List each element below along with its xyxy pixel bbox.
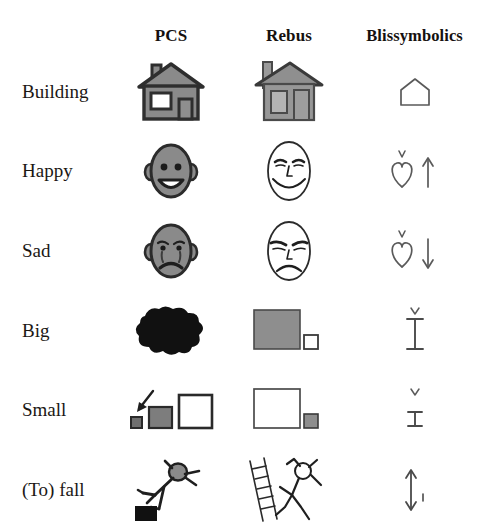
column-header-blissymbolics: Blissymbolics bbox=[348, 0, 481, 52]
cell-pcs-small bbox=[112, 371, 230, 451]
table-row: (To) fall bbox=[0, 450, 481, 530]
bliss-sad-icon bbox=[384, 227, 446, 275]
cell-rebus-fall bbox=[230, 450, 348, 530]
column-header-rebus: Rebus bbox=[230, 0, 348, 52]
cell-bliss-happy bbox=[348, 132, 481, 212]
cell-bliss-sad bbox=[348, 211, 481, 291]
bliss-small-icon bbox=[397, 383, 433, 437]
cell-bliss-fall bbox=[348, 450, 481, 530]
cell-pcs-happy bbox=[112, 132, 230, 212]
rebus-happy-face-icon bbox=[260, 138, 318, 204]
rebus-big-squares-icon bbox=[251, 304, 327, 358]
pcs-big-blob-icon bbox=[131, 302, 211, 360]
column-header-pcs: PCS bbox=[112, 0, 230, 52]
table-header-row: PCS Rebus Blissymbolics bbox=[0, 0, 481, 52]
bliss-happy-icon bbox=[384, 147, 446, 195]
bliss-house-icon bbox=[395, 75, 435, 109]
bliss-big-icon bbox=[397, 304, 433, 358]
pcs-falling-figure-icon bbox=[129, 457, 213, 523]
pcs-small-squares-icon bbox=[127, 381, 215, 439]
cell-bliss-small bbox=[348, 371, 481, 451]
cell-rebus-sad bbox=[230, 211, 348, 291]
table-row: Happy bbox=[0, 132, 481, 212]
rebus-small-squares-icon bbox=[251, 383, 327, 437]
symbol-comparison-figure: PCS Rebus Blissymbolics Building bbox=[0, 0, 481, 530]
rebus-house-icon bbox=[252, 57, 326, 127]
table-row: Sad bbox=[0, 211, 481, 291]
rebus-sad-face-icon bbox=[260, 218, 318, 284]
cell-bliss-building bbox=[348, 52, 481, 132]
row-label-small: Small bbox=[0, 371, 112, 451]
row-label-building: Building bbox=[0, 52, 112, 132]
bliss-fall-icon bbox=[395, 463, 435, 517]
cell-bliss-big bbox=[348, 291, 481, 371]
row-label-big: Big bbox=[0, 291, 112, 371]
table-row: Big bbox=[0, 291, 481, 371]
column-header-blank bbox=[0, 0, 112, 52]
pcs-happy-face-icon bbox=[140, 139, 202, 203]
cell-pcs-building bbox=[112, 52, 230, 132]
cell-rebus-happy bbox=[230, 132, 348, 212]
row-label-happy: Happy bbox=[0, 132, 112, 212]
rebus-falling-figure-icon bbox=[247, 455, 331, 525]
cell-rebus-big bbox=[230, 291, 348, 371]
row-label-sad: Sad bbox=[0, 211, 112, 291]
cell-rebus-building bbox=[230, 52, 348, 132]
cell-rebus-small bbox=[230, 371, 348, 451]
pcs-house-icon bbox=[134, 59, 208, 125]
pcs-sad-face-icon bbox=[140, 219, 202, 283]
cell-pcs-sad bbox=[112, 211, 230, 291]
table-row: Building bbox=[0, 52, 481, 132]
cell-pcs-big bbox=[112, 291, 230, 371]
row-label-to-fall: (To) fall bbox=[0, 450, 112, 530]
table-row: Small bbox=[0, 371, 481, 451]
cell-pcs-fall bbox=[112, 450, 230, 530]
symbol-comparison-table: PCS Rebus Blissymbolics Building bbox=[0, 0, 481, 530]
